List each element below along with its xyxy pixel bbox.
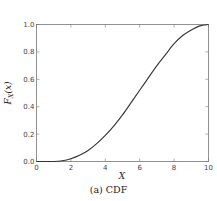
x-tick-label: 10 [204,164,213,172]
x-axis-ticks: 0246810 [34,25,213,172]
plot-area: 0246810 0.00.20.40.60.81.0 [23,21,213,172]
y-tick-label: 0.4 [23,103,35,111]
y-axis-ticks: 0.00.20.40.60.81.0 [23,21,208,166]
y-tick-label: 0.2 [23,131,34,139]
figure-caption: (a) CDF [0,184,217,195]
x-axis-label: X [118,171,126,181]
cdf-chart: 0246810 0.00.20.40.60.81.0 X FX(x) [0,0,217,201]
y-axis-label: FX(x) [3,81,15,105]
axes-frame [37,25,209,162]
y-tick-label: 0.8 [23,48,34,56]
x-tick-label: 6 [137,164,142,172]
x-tick-label: 4 [103,164,108,172]
x-tick-label: 2 [69,164,73,172]
y-tick-label: 1.0 [23,21,34,29]
y-tick-label: 0.6 [23,76,35,84]
x-tick-label: 0 [34,164,38,172]
y-tick-label: 0.0 [23,158,34,166]
cdf-line [37,25,209,162]
x-tick-label: 8 [172,164,176,172]
